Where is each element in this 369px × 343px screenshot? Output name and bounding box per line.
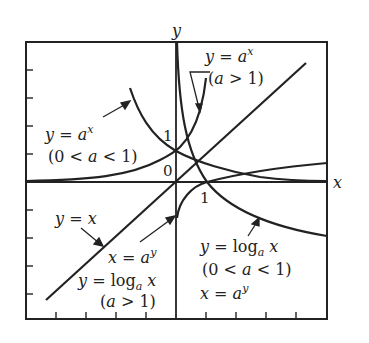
label-exp-a-gt-1-line1: y = ax [204,45,254,66]
x-axis-label: x [333,173,342,192]
arrowhead-icon [121,101,130,109]
label-exp-a-lt-1-line2: (0 < a < 1) [48,147,138,166]
label-log-a-lt-1-line3: x = ay [200,282,249,303]
origin-label: 0 [163,162,173,180]
arrowhead-icon [196,104,202,112]
label-exp-a-lt-1-line1: y = ax [44,123,94,144]
leader-exp-gt-1 [190,72,210,108]
label-exp-a-gt-1-line2: (a > 1) [208,69,264,88]
leader-log-gt-1 [140,220,170,242]
label-identity: y = x [54,209,97,228]
label-log-a-gt-1-line3: (a > 1) [100,292,156,311]
y-unit-label: 1 [163,127,173,145]
label-log-a-lt-1-line2: (0 < a < 1) [202,260,292,279]
x-unit-label: 1 [200,189,210,207]
label-log-a-gt-1-line1: x = ay [108,246,157,267]
function-graph: y x 0 1 1 y = ax (a > 1) y = ax (0 < a <… [0,0,369,343]
label-log-a-lt-1-line1: y = loga x [199,237,278,259]
arrowhead-icon [166,216,175,224]
y-axis-label: y [171,21,182,40]
arrowhead-icon [252,218,259,226]
label-log-a-gt-1-line2: y = loga x [77,271,156,293]
